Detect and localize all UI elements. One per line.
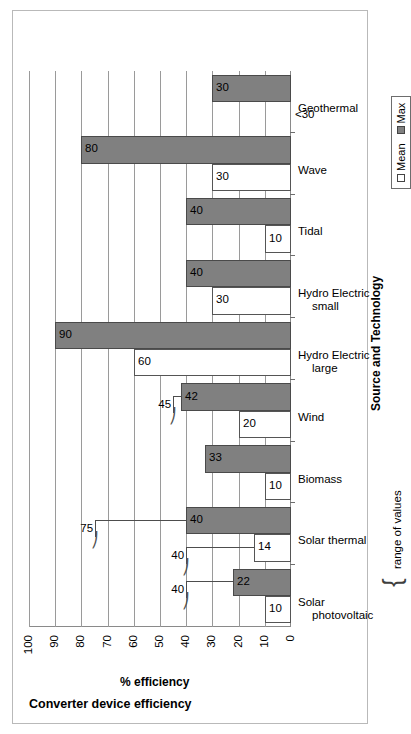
bar-label-mean: 10: [269, 233, 282, 245]
bar-label-max: 90: [59, 329, 72, 341]
range-label-thermal-mean: 40: [172, 550, 185, 562]
category-label: Solarphotovoltaic: [298, 596, 408, 621]
bar-label-max: 42: [185, 391, 198, 403]
bar-label-max: 80: [85, 144, 98, 156]
legend-swatch-mean-icon: [397, 174, 405, 182]
category-tickmark: [290, 132, 295, 133]
bar-label-max: 22: [237, 576, 250, 588]
gridline: [55, 71, 56, 627]
range-of-values-note: range of values: [391, 490, 403, 569]
category-tickmark: [290, 317, 295, 318]
bar-chart: Converter device efficiency % efficiency…: [13, 11, 367, 723]
plot-area: 10221440103320426090304010403080<3030 ⎠4…: [29, 71, 291, 627]
value-axis-title: % efficiency: [120, 675, 189, 689]
bar-label-max: 40: [190, 514, 203, 526]
category-label: Biomass: [298, 473, 408, 486]
category-tickmark: [290, 194, 295, 195]
chart-title: Converter device efficiency: [29, 697, 192, 711]
value-tick-label: 10: [259, 635, 271, 661]
range-label-pv-max: 40: [172, 585, 185, 597]
range-label-thermal-max: 75: [80, 523, 93, 535]
bar-label-max: 40: [190, 205, 203, 217]
range-leader-line: [186, 581, 233, 582]
range-leader-line: [173, 396, 181, 397]
bar-label-mean: 60: [138, 356, 151, 368]
legend-swatch-max-icon: [397, 126, 405, 134]
bar-label-mean: 30: [216, 295, 229, 307]
legend-item-mean: Mean: [395, 143, 407, 182]
chart-legend: Mean Max: [391, 96, 411, 189]
value-tick-label: 40: [180, 635, 192, 661]
category-tickmark: [290, 441, 295, 442]
legend-label-max: Max: [395, 103, 407, 124]
bar-label-mean: 10: [269, 604, 282, 616]
category-tickmark: [290, 379, 295, 380]
range-leader-line: [186, 547, 254, 548]
value-tick-label: 0: [285, 635, 297, 661]
value-tick-label: 50: [154, 635, 166, 661]
value-tick-label: 20: [233, 635, 245, 661]
category-label: Hydro Electriclarge: [298, 349, 408, 374]
value-tick-label: 60: [128, 635, 140, 661]
bar-max: [81, 136, 291, 163]
category-tickmark: [290, 255, 295, 256]
legend-label-mean: Mean: [395, 143, 407, 171]
category-label: Hydro Electricsmall: [298, 287, 408, 312]
range-brace-icon: {: [379, 578, 405, 587]
range-leader-line: [95, 520, 187, 521]
value-tick-label: 30: [206, 635, 218, 661]
category-label: Tidal: [298, 225, 408, 238]
category-label: Wind: [298, 411, 408, 424]
category-tickmark: [290, 564, 295, 565]
bar-mean: [134, 349, 291, 376]
value-tick-label: 100: [23, 635, 35, 661]
bar-max: [55, 322, 291, 349]
bar-label-max: 30: [216, 82, 229, 94]
value-tick-label: 80: [75, 635, 87, 661]
bar-label-mean: 20: [243, 418, 256, 430]
value-tick-label: 70: [102, 635, 114, 661]
legend-item-max: Max: [395, 103, 407, 135]
bar-label-max: 40: [190, 267, 203, 279]
bar-label-mean: 14: [258, 542, 271, 554]
chart-rotation-host: Converter device efficiency % efficiency…: [13, 11, 367, 723]
gridline: [29, 71, 30, 627]
range-label-wind-max: 45: [158, 399, 171, 411]
bar-label-mean: 10: [269, 480, 282, 492]
category-tickmark: [290, 502, 295, 503]
bar-label-max: 33: [209, 453, 222, 465]
bar-label-mean: 30: [216, 171, 229, 183]
value-tick-label: 90: [49, 635, 61, 661]
chart-outer-border: Converter device efficiency % efficiency…: [12, 10, 368, 724]
